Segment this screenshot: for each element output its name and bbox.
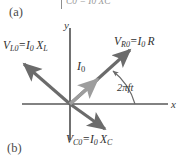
- angle-label: 2πft: [117, 83, 133, 94]
- capacitor-voltage-label: VC0=I0 XC Vᶜ₀ = I₀ Xᶜ: [66, 134, 112, 147]
- current-arrow: [70, 79, 98, 104]
- inductor-voltage-label-text: VL0=I0 XL: [3, 39, 48, 51]
- current-label: I0 I₀: [77, 60, 85, 74]
- phasor-diagram-figure: C0 = I0 XC (a) (b) y x: [0, 0, 183, 162]
- capacitor-voltage-arrow: [70, 104, 105, 129]
- resistor-voltage-label: VR0=I0 R Vᴿ₀ = I₀ R: [114, 36, 155, 49]
- capacitor-voltage-label-text: VC0=I0 XC: [66, 133, 112, 145]
- x-axis-label: x: [171, 99, 176, 110]
- inductor-voltage-label: VL0=I0 XL Vᴸ₀ = I₀ Xᴸ: [3, 40, 48, 53]
- resistor-voltage-label-text: VR0=I0 R: [114, 35, 155, 47]
- current-label-text: I0: [77, 59, 85, 73]
- y-axis-label: y: [64, 20, 69, 31]
- inductor-voltage-arrow: [24, 64, 70, 104]
